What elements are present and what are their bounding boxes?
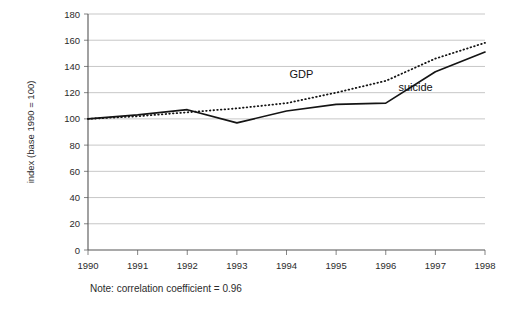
x-tick-label: 1992 xyxy=(177,260,198,271)
gridlines-group xyxy=(88,14,485,224)
x-tick-label: 1996 xyxy=(375,260,396,271)
x-tick-label: 1991 xyxy=(127,260,148,271)
tickmarks-group xyxy=(84,14,485,255)
y-axis-title: index (base 1990 = 100) xyxy=(25,81,36,184)
y-tick-label: 60 xyxy=(69,166,80,177)
series-annotations-group: GDPsuicide xyxy=(289,68,432,93)
x-tick-label: 1994 xyxy=(276,260,297,271)
y-tick-label: 180 xyxy=(64,9,80,20)
x-tick-label: 1993 xyxy=(226,260,247,271)
y-tick-label: 140 xyxy=(64,61,80,72)
series-label-suicide: suicide xyxy=(398,81,432,93)
y-tick-label: 120 xyxy=(64,87,80,98)
y-tick-label: 100 xyxy=(64,113,80,124)
y-tick-label: 40 xyxy=(69,192,80,203)
x-tick-label: 1998 xyxy=(474,260,495,271)
x-tick-labels-group: 199019911992199319941995199619971998 xyxy=(77,260,495,271)
x-tick-label: 1995 xyxy=(326,260,347,271)
x-tick-label: 1990 xyxy=(77,260,98,271)
y-tick-label: 20 xyxy=(69,218,80,229)
line-chart: 020406080100120140160180 199019911992199… xyxy=(0,0,513,312)
series-label-gdp: GDP xyxy=(289,68,313,80)
chart-figure: 020406080100120140160180 199019911992199… xyxy=(0,0,513,312)
x-tick-label: 1997 xyxy=(425,260,446,271)
y-tick-label: 0 xyxy=(75,245,80,256)
y-tick-label: 160 xyxy=(64,35,80,46)
y-tick-label: 80 xyxy=(69,140,80,151)
y-tick-labels-group: 020406080100120140160180 xyxy=(64,9,80,256)
chart-note: Note: correlation coefficient = 0.96 xyxy=(90,283,242,294)
